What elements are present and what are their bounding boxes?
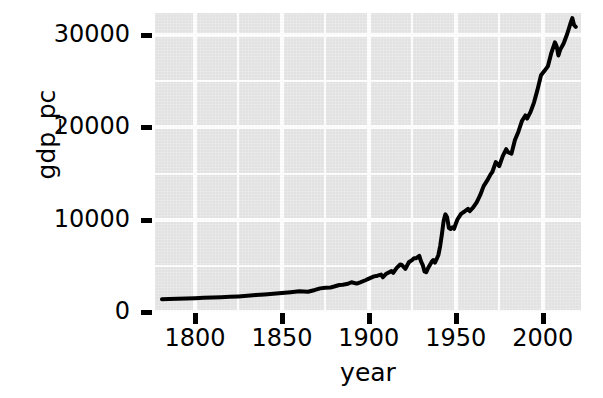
x-tick-label: 1800 bbox=[145, 326, 245, 350]
x-axis-title: year bbox=[155, 358, 581, 387]
x-tick-label: 1950 bbox=[406, 326, 506, 350]
x-axis-tick-labels: 18001850190019502000 bbox=[0, 0, 603, 398]
x-tick-label: 2000 bbox=[493, 326, 593, 350]
chart-root: gdp_pc 0100002000030000 1800185019001950… bbox=[0, 0, 603, 398]
x-tick-label: 1900 bbox=[319, 326, 419, 350]
x-tick-label: 1850 bbox=[232, 326, 332, 350]
